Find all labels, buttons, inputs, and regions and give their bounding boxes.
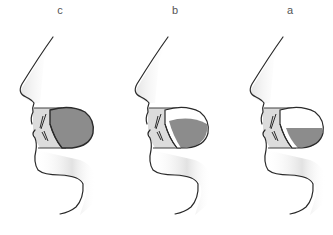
panel-label-c: c — [50, 4, 70, 16]
panel-label-a: a — [280, 4, 300, 16]
panel-a — [250, 37, 326, 215]
panel-c — [20, 37, 96, 215]
panel-b — [135, 37, 211, 215]
panel-label-b: b — [165, 4, 185, 16]
profile-diagram — [0, 0, 333, 235]
